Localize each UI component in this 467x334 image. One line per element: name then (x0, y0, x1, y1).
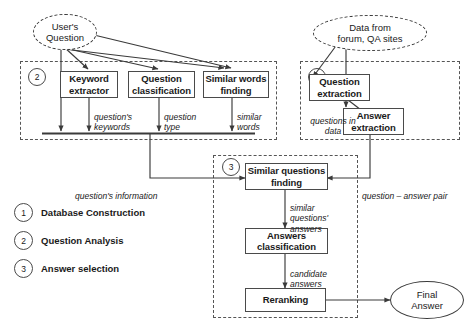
legend-badge-3-number: 3 (21, 264, 26, 274)
legend-item-3: 3 Answer selection (14, 259, 119, 278)
node-question-extraction-label: Question extraction (317, 76, 361, 99)
node-question-extraction: Question extraction (309, 74, 370, 101)
node-final-answer-label: Final Answer (411, 289, 443, 312)
legend-item-1: 1 Database Construction (14, 203, 145, 222)
edge-label-questions-in-data-text: questions in data (310, 116, 355, 137)
node-similar-words-finding-label: Similar words finding (206, 73, 267, 96)
edge-label-similar-words-text: similar words (237, 112, 262, 133)
edge-label-question-answer-pair: question – answer pair (362, 180, 467, 201)
node-data-from-forum-label: Data from forum, QA sites (338, 22, 403, 45)
edge-label-similar-questions-answers: similar questions' answers (290, 192, 350, 234)
legend-label-2: Question Analysis (41, 235, 124, 246)
legend-item-2: 2 Question Analysis (14, 231, 124, 250)
edge-label-candidate-answers-text: candidate answers (290, 269, 327, 290)
legend-label-1: Database Construction (41, 207, 145, 218)
node-reranking-label: Reranking (263, 294, 309, 306)
legend-badge-2: 2 (14, 231, 33, 250)
edge-label-questions-information-text: question's information (75, 191, 157, 201)
legend-badge-1: 1 (14, 203, 33, 222)
group-badge-3-label: 3 (229, 162, 234, 172)
node-data-from-forum: Data from forum, QA sites (313, 15, 427, 51)
group-badge-3: 3 (222, 158, 240, 176)
legend-badge-3: 3 (14, 259, 33, 278)
node-final-answer: Final Answer (390, 281, 464, 319)
node-users-question: User's Question (33, 14, 97, 50)
edge-label-questions-information: question's information (75, 180, 210, 201)
edge-label-questions-in-data: questions in data (302, 105, 364, 137)
legend-badge-1-number: 1 (21, 208, 26, 218)
node-keyword-extractor: Keyword extractor (60, 71, 118, 98)
node-question-classification: Question classification (128, 71, 195, 98)
group-badge-2: 2 (28, 68, 46, 86)
node-similar-questions-finding-label: Similar questions finding (248, 165, 326, 188)
node-similar-words-finding: Similar words finding (203, 71, 269, 98)
edge-label-question-type-text: question type (164, 112, 196, 133)
diagram-canvas: 2 1 3 (0, 0, 467, 334)
edge-label-similar-questions-answers-text: similar questions' answers (290, 203, 328, 234)
edge-label-questions-keywords: question's keywords (94, 101, 154, 133)
node-users-question-label: User's Question (46, 21, 84, 44)
legend-label-3: Answer selection (41, 263, 119, 274)
group-badge-2-label: 2 (35, 72, 40, 82)
edge-label-question-type: question type (164, 101, 216, 133)
edge-label-questions-keywords-text: question's keywords (94, 112, 132, 133)
node-similar-questions-finding: Similar questions finding (245, 163, 328, 190)
node-keyword-extractor-label: Keyword extractor (69, 73, 109, 96)
edge-label-similar-words: similar words (237, 101, 279, 133)
legend-badge-2-number: 2 (21, 236, 26, 246)
edge-label-candidate-answers: candidate answers (290, 258, 350, 290)
edge-label-question-answer-pair-text: question – answer pair (362, 191, 448, 201)
node-question-classification-label: Question classification (132, 73, 191, 96)
node-reranking: Reranking (245, 288, 326, 312)
